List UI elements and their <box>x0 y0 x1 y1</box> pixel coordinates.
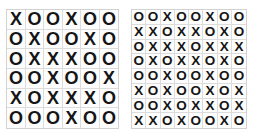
grid-cell-left-r4c4[interactable]: O <box>63 69 82 89</box>
grid-cell-right-r4c7[interactable]: X <box>218 54 232 69</box>
grid-cell-left-r6c4[interactable]: X <box>63 108 82 128</box>
grid-cell-right-r8c2[interactable]: X <box>146 113 160 128</box>
grid-cell-right-r7c1[interactable]: O <box>132 99 146 114</box>
grid-cell-right-r1c6[interactable]: X <box>203 10 217 25</box>
grid-cell-right-r5c3[interactable]: X <box>161 69 175 84</box>
grid-cell-right-r8c7[interactable]: X <box>218 113 232 128</box>
grid-cell-left-r3c3[interactable]: X <box>44 49 63 69</box>
grid-cell-left-r3c1[interactable]: O <box>7 49 26 69</box>
grid-cell-left-r6c1[interactable]: O <box>7 108 26 128</box>
grid-cell-right-r3c4[interactable]: X <box>175 40 189 55</box>
grid-cell-right-r2c4[interactable]: X <box>175 25 189 40</box>
grid-cell-left-r6c5[interactable]: O <box>81 108 100 128</box>
grid-cell-left-r2c6[interactable]: O <box>100 30 119 50</box>
grid-cell-right-r1c7[interactable]: O <box>218 10 232 25</box>
grid-cell-left-r3c6[interactable]: O <box>100 49 119 69</box>
grid-cell-right-r6c3[interactable]: X <box>161 84 175 99</box>
grid-cell-right-r8c8[interactable]: O <box>232 113 246 128</box>
grid-cell-right-r5c2[interactable]: O <box>146 69 160 84</box>
grid-cell-right-r1c5[interactable]: O <box>189 10 203 25</box>
grid-cell-right-r8c1[interactable]: X <box>132 113 146 128</box>
grid-cell-left-r4c5[interactable]: O <box>81 69 100 89</box>
grid-cell-right-r2c7[interactable]: X <box>218 25 232 40</box>
grid-cell-right-r6c4[interactable]: O <box>175 84 189 99</box>
grid-cell-left-r3c5[interactable]: O <box>81 49 100 69</box>
grid-cell-right-r6c6[interactable]: X <box>203 84 217 99</box>
grid-cell-right-r2c6[interactable]: O <box>203 25 217 40</box>
grid-cell-right-r3c7[interactable]: X <box>218 40 232 55</box>
grid-cell-right-r2c2[interactable]: X <box>146 25 160 40</box>
grid-cell-right-r5c8[interactable]: O <box>232 69 246 84</box>
grid-cell-right-r3c6[interactable]: X <box>203 40 217 55</box>
grid-cell-right-r3c5[interactable]: O <box>189 40 203 55</box>
grid-cell-right-r2c3[interactable]: O <box>161 25 175 40</box>
grid-cell-right-r2c5[interactable]: X <box>189 25 203 40</box>
grid-cell-left-r2c1[interactable]: O <box>7 30 26 50</box>
grid-cell-right-r1c2[interactable]: O <box>146 10 160 25</box>
left-grid[interactable]: XOOXOOOXOOXOOXXXOOOOXOOXXOXXXOOOOXOO <box>6 9 119 129</box>
grid-cell-right-r6c7[interactable]: O <box>218 84 232 99</box>
grid-cell-right-r7c7[interactable]: O <box>218 99 232 114</box>
grid-cell-left-r1c2[interactable]: O <box>26 10 45 30</box>
grid-cell-left-r5c5[interactable]: X <box>81 89 100 109</box>
grid-cell-right-r8c6[interactable]: O <box>203 113 217 128</box>
grid-cell-right-r4c4[interactable]: X <box>175 54 189 69</box>
grid-cell-right-r5c5[interactable]: O <box>189 69 203 84</box>
grid-cell-right-r4c5[interactable]: X <box>189 54 203 69</box>
right-grid[interactable]: OOXOOXOOXXOXXOXOOXXXOXXXOXOXXOXOOOXOOXOO… <box>131 9 247 129</box>
grid-cell-right-r1c8[interactable]: O <box>232 10 246 25</box>
grid-cell-left-r6c2[interactable]: O <box>26 108 45 128</box>
grid-cell-left-r4c3[interactable]: X <box>44 69 63 89</box>
grid-cell-left-r5c2[interactable]: O <box>26 89 45 109</box>
grid-cell-left-r4c1[interactable]: O <box>7 69 26 89</box>
grid-cell-right-r7c3[interactable]: X <box>161 99 175 114</box>
grid-cell-right-r7c4[interactable]: O <box>175 99 189 114</box>
grid-cell-left-r1c6[interactable]: O <box>100 10 119 30</box>
grid-cell-left-r5c4[interactable]: X <box>63 89 82 109</box>
grid-cell-right-r4c6[interactable]: O <box>203 54 217 69</box>
grid-cell-right-r6c5[interactable]: O <box>189 84 203 99</box>
grid-cell-right-r7c6[interactable]: X <box>203 99 217 114</box>
grid-cell-right-r2c8[interactable]: O <box>232 25 246 40</box>
grid-cell-right-r6c2[interactable]: O <box>146 84 160 99</box>
grid-cell-left-r2c2[interactable]: X <box>26 30 45 50</box>
grid-cell-left-r2c4[interactable]: O <box>63 30 82 50</box>
grid-cell-left-r2c3[interactable]: O <box>44 30 63 50</box>
grid-cell-left-r6c6[interactable]: O <box>100 108 119 128</box>
grid-cell-left-r2c5[interactable]: X <box>81 30 100 50</box>
grid-cell-right-r4c8[interactable]: O <box>232 54 246 69</box>
grid-cell-left-r3c4[interactable]: X <box>63 49 82 69</box>
grid-cell-right-r5c4[interactable]: O <box>175 69 189 84</box>
grid-cell-left-r3c2[interactable]: X <box>26 49 45 69</box>
grid-cell-left-r4c6[interactable]: X <box>100 69 119 89</box>
grid-cell-right-r3c1[interactable]: O <box>132 40 146 55</box>
grid-cell-left-r5c3[interactable]: X <box>44 89 63 109</box>
grid-cell-left-r5c6[interactable]: O <box>100 89 119 109</box>
grid-cell-right-r6c1[interactable]: X <box>132 84 146 99</box>
grid-cell-right-r4c2[interactable]: X <box>146 54 160 69</box>
grid-cell-left-r1c3[interactable]: O <box>44 10 63 30</box>
grid-cell-right-r7c5[interactable]: X <box>189 99 203 114</box>
grid-cell-right-r8c4[interactable]: X <box>175 113 189 128</box>
grid-cell-right-r5c1[interactable]: O <box>132 69 146 84</box>
grid-cell-left-r6c3[interactable]: O <box>44 108 63 128</box>
grid-cell-right-r2c1[interactable]: X <box>132 25 146 40</box>
grid-cell-right-r3c3[interactable]: X <box>161 40 175 55</box>
grid-cell-right-r7c2[interactable]: O <box>146 99 160 114</box>
grid-cell-right-r5c7[interactable]: O <box>218 69 232 84</box>
grid-cell-left-r1c1[interactable]: X <box>7 10 26 30</box>
grid-cell-right-r3c2[interactable]: X <box>146 40 160 55</box>
grid-cell-right-r3c8[interactable]: X <box>232 40 246 55</box>
grid-cell-right-r8c5[interactable]: O <box>189 113 203 128</box>
grid-cell-left-r1c4[interactable]: X <box>63 10 82 30</box>
grid-cell-left-r1c5[interactable]: O <box>81 10 100 30</box>
grid-cell-right-r6c8[interactable]: X <box>232 84 246 99</box>
grid-cell-left-r4c2[interactable]: O <box>26 69 45 89</box>
grid-cell-right-r8c3[interactable]: O <box>161 113 175 128</box>
grid-cell-right-r1c1[interactable]: O <box>132 10 146 25</box>
grid-cell-left-r5c1[interactable]: X <box>7 89 26 109</box>
grid-cell-right-r1c3[interactable]: X <box>161 10 175 25</box>
grid-cell-right-r7c8[interactable]: X <box>232 99 246 114</box>
grid-cell-right-r4c3[interactable]: O <box>161 54 175 69</box>
grid-cell-right-r1c4[interactable]: O <box>175 10 189 25</box>
